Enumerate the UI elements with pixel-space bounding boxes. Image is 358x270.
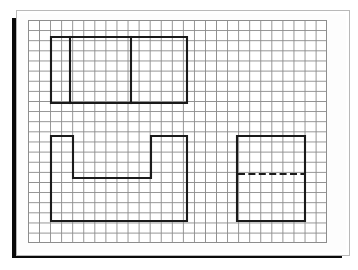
grid-border bbox=[28, 20, 327, 243]
graph-paper-grid bbox=[28, 20, 327, 243]
drawing-page bbox=[0, 0, 358, 270]
